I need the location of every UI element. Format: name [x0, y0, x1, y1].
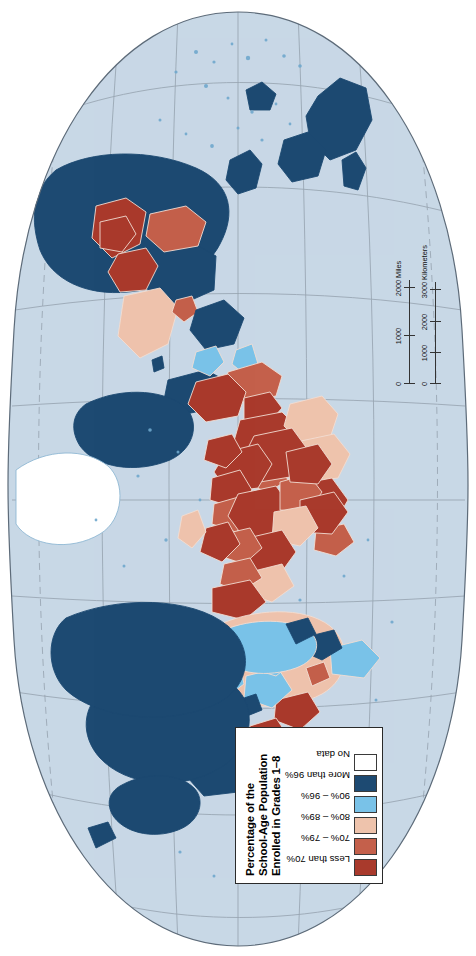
legend-item-more-than-96[interactable]: More than 96%	[290, 774, 377, 792]
region-canada[interactable]	[51, 602, 245, 717]
scale-bar-kilometers: 0 1000 2000 3000 Kilometers	[424, 262, 450, 392]
region-antarctica[interactable]	[16, 453, 120, 545]
map-legend[interactable]: Percentage of the School-Age Population …	[235, 727, 383, 884]
scale-km-tick-2: 2000	[420, 314, 429, 330]
region-australia[interactable]	[74, 392, 194, 467]
scale-miles-unit: Miles	[394, 261, 403, 278]
scale-km-tick-1: 1000	[420, 345, 429, 361]
scale-miles-tick-2: 2000	[394, 280, 403, 296]
scale-bar: 0 1000 2000 Miles 0 1000 2000 3000 Kilom…	[398, 262, 458, 392]
legend-swatch-4[interactable]	[354, 775, 377, 792]
legend-swatch-5[interactable]	[354, 754, 377, 771]
legend-swatch-0[interactable]	[354, 859, 377, 876]
legend-swatch-1[interactable]	[354, 838, 377, 855]
legend-items: Less than 70% 70% – 79% 80% – 89% 90% – …	[290, 735, 378, 876]
legend-title-line-3: Enrolled in Grades 1–8	[270, 735, 283, 876]
legend-item-70-79[interactable]: 70% – 79%	[290, 837, 377, 855]
legend-title: Percentage of the School-Age Population …	[244, 735, 284, 876]
legend-swatch-3[interactable]	[354, 796, 377, 813]
scale-miles-tick-0: 0	[394, 382, 403, 386]
scale-miles-tick-1: 1000	[394, 328, 403, 344]
legend-item-80-89[interactable]: 80% – 89%	[290, 816, 377, 834]
scale-km-tick-3: 3000	[420, 282, 429, 298]
legend-swatch-2[interactable]	[354, 817, 377, 834]
scale-km-tick-0: 0	[420, 382, 429, 386]
legend-title-line-1: Percentage of the	[244, 735, 257, 876]
map-figure: 0 1000 2000 Miles 0 1000 2000 3000 Kilom…	[0, 0, 476, 956]
region-alaska[interactable]	[109, 776, 200, 835]
scale-km-unit: Kilometers	[420, 245, 429, 280]
legend-item-90-96[interactable]: 90% – 96%	[290, 795, 377, 813]
legend-item-less-than-70[interactable]: Less than 70%	[290, 858, 377, 876]
legend-item-no-data[interactable]: No data	[290, 753, 377, 771]
legend-title-line-2: School-Age Population	[257, 735, 270, 876]
